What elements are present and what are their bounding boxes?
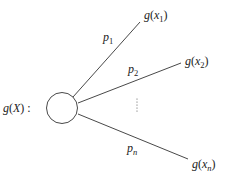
prob-label-n: pn xyxy=(126,141,137,157)
probability-tree-diagram: g(X): p1 p2 pn g(x1) g(x2) g(xn) xyxy=(0,0,226,177)
outcome-label-1: g(x1) xyxy=(144,8,168,24)
outcome-label-n: g(xn) xyxy=(192,157,216,173)
prob-label-1: p1 xyxy=(102,30,113,46)
prob-label-2: p2 xyxy=(127,62,138,78)
vertical-ellipsis xyxy=(136,98,137,111)
outcome-label-2: g(x2) xyxy=(185,54,209,70)
root-node xyxy=(47,93,78,124)
root-label: g(X): xyxy=(3,101,31,115)
